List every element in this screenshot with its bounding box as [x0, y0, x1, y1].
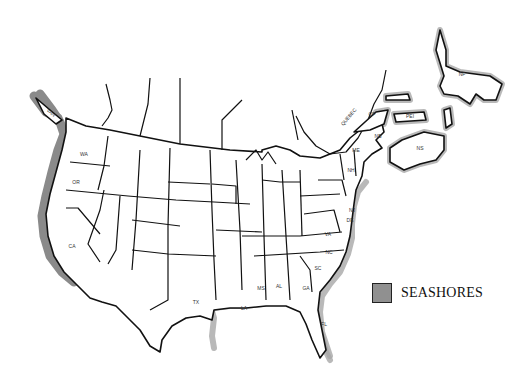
label-ca: CA — [69, 243, 77, 249]
label-qp: QP — [368, 111, 376, 117]
label-al: AL — [276, 283, 282, 289]
label-quebec: QUEBEC — [339, 106, 357, 126]
label-tx: TX — [193, 299, 200, 305]
label-nb: NB — [375, 133, 383, 139]
us-canada-seashores-map: WA OR CA TX LA MS AL GA FL SC NC VA NJ D… — [0, 0, 515, 376]
label-la: LA — [241, 305, 248, 311]
label-fl: FL — [321, 321, 327, 327]
legend-swatch-seashores — [372, 283, 392, 303]
label-wa: WA — [80, 151, 89, 157]
legend-label: SEASHORES — [401, 285, 483, 301]
label-me: ME — [352, 147, 360, 153]
label-pe: PEI — [406, 113, 414, 119]
label-nc: NC — [325, 249, 333, 255]
label-nh: NH — [347, 167, 355, 173]
label-sc: SC — [315, 265, 322, 271]
label-nf: NF — [459, 71, 466, 77]
label-ms: MS — [257, 285, 265, 291]
legend: SEASHORES — [372, 283, 483, 303]
label-ns: NS — [417, 145, 425, 151]
label-de: DE — [347, 217, 355, 223]
label-ga: GA — [302, 285, 310, 291]
label-va: VA — [325, 231, 332, 237]
label-or: OR — [72, 179, 80, 185]
label-nj: NJ — [349, 207, 356, 213]
